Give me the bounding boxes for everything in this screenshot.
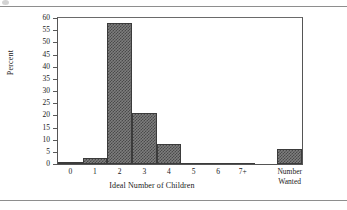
bar bbox=[157, 144, 182, 164]
y-axis-tick-label: 25 bbox=[43, 98, 51, 107]
x-axis-tick-label: 3 bbox=[142, 167, 146, 176]
x-axis-title: Ideal Number of Children bbox=[57, 181, 247, 190]
bar bbox=[206, 163, 231, 165]
histogram-chart: Percent 051015202530354045505560 0123456… bbox=[0, 0, 347, 210]
bar bbox=[231, 163, 256, 165]
y-axis-tick-label: 45 bbox=[43, 50, 51, 59]
y-axis-tick-label: 50 bbox=[43, 37, 51, 46]
x-axis-tick-label: 2 bbox=[118, 167, 122, 176]
x-axis-tick-label: 6 bbox=[216, 167, 220, 176]
bar bbox=[277, 149, 302, 164]
bar bbox=[107, 23, 132, 164]
y-axis-tick-label: 0 bbox=[46, 159, 50, 168]
y-axis-tick-label: 60 bbox=[43, 13, 51, 22]
bar-series bbox=[58, 18, 302, 164]
y-axis-tick-label: 30 bbox=[43, 86, 51, 95]
y-axis-title: Percent bbox=[6, 31, 15, 95]
y-axis-tick-label: 10 bbox=[43, 135, 51, 144]
y-axis-tick-label: 20 bbox=[43, 110, 51, 119]
x-axis-tick-label: 5 bbox=[192, 167, 196, 176]
bar bbox=[83, 158, 108, 164]
y-axis-tick-label: 15 bbox=[43, 123, 51, 132]
y-axis-tick-label: 5 bbox=[46, 147, 50, 156]
bar bbox=[132, 113, 157, 164]
y-axis-tick-label: 40 bbox=[43, 62, 51, 71]
x-axis-tick-label: Number Wanted bbox=[268, 167, 312, 186]
y-axis-tick-label: 35 bbox=[43, 74, 51, 83]
x-axis-tick-label: 7+ bbox=[239, 167, 247, 176]
x-axis-tick-label: 4 bbox=[167, 167, 171, 176]
x-axis-tick-label: 1 bbox=[93, 167, 97, 176]
y-axis-tick-label: 55 bbox=[43, 25, 51, 34]
bar bbox=[181, 163, 206, 165]
bar bbox=[58, 162, 83, 164]
x-axis-tick-label: 0 bbox=[68, 167, 72, 176]
